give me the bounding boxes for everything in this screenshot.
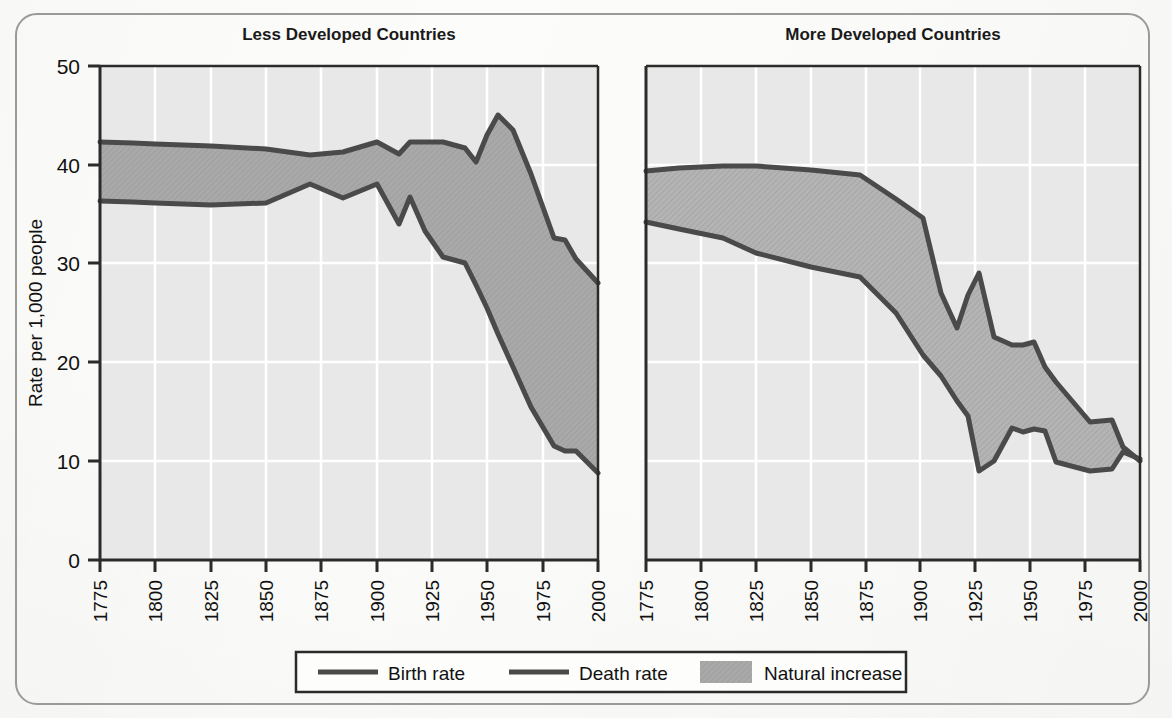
y-tick-30: 30 (57, 252, 80, 275)
x-tick-1950-right: 1950 (1020, 580, 1041, 622)
x-tick-1775-left: 1775 (90, 580, 111, 622)
x-ticks-left (100, 560, 598, 572)
panel-title-more-developed: More Developed Countries (785, 25, 1000, 44)
legend-item-natural-increase[interactable]: Natural increase (700, 661, 902, 684)
x-tick-labels-left: 1775 1800 1825 1850 1875 1900 1925 1950 … (90, 580, 609, 622)
x-tick-1900-left: 1900 (367, 580, 388, 622)
y-tick-labels: 50 40 30 20 10 0 (57, 55, 80, 572)
y-axis-label: Rate per 1,000 people (25, 219, 46, 407)
x-tick-1875-right: 1875 (856, 580, 877, 622)
panel-title-less-developed: Less Developed Countries (242, 25, 456, 44)
figure-svg: Less Developed Countries (0, 0, 1172, 718)
y-ticks-left (88, 66, 100, 560)
x-tick-1900-right: 1900 (910, 580, 931, 622)
x-tick-1925-right: 1925 (965, 580, 986, 622)
x-tick-1975-right: 1975 (1075, 580, 1096, 622)
y-tick-0: 0 (68, 549, 80, 572)
panel-less-developed: Less Developed Countries (25, 25, 609, 622)
legend-swatch-icon-natural-increase (700, 661, 752, 683)
x-tick-2000-left: 2000 (588, 580, 609, 622)
x-tick-1800-right: 1800 (691, 580, 712, 622)
y-tick-20: 20 (57, 351, 80, 374)
x-tick-1825-left: 1825 (201, 580, 222, 622)
y-tick-10: 10 (57, 450, 80, 473)
legend-label-natural-increase: Natural increase (764, 663, 902, 684)
x-tick-1850-left: 1850 (256, 580, 277, 622)
x-tick-labels-right: 1775 1800 1825 1850 1875 1900 1925 1950 … (636, 580, 1151, 622)
y-tick-50: 50 (57, 55, 80, 78)
x-tick-1775-right: 1775 (636, 580, 657, 622)
x-tick-1825-right: 1825 (746, 580, 767, 622)
x-tick-1875-left: 1875 (311, 580, 332, 622)
x-tick-1925-left: 1925 (422, 580, 443, 622)
legend-label-death-rate: Death rate (579, 663, 668, 684)
panel-more-developed: More Developed Countries (636, 25, 1151, 622)
x-tick-1975-left: 1975 (533, 580, 554, 622)
page-canvas: Less Developed Countries (0, 0, 1172, 718)
x-tick-1850-right: 1850 (801, 580, 822, 622)
x-tick-1950-left: 1950 (477, 580, 498, 622)
plot-area-right: 1775 1800 1825 1850 1875 1900 1925 1950 … (636, 66, 1151, 622)
x-tick-2000-right: 2000 (1130, 580, 1151, 622)
x-ticks-right (646, 560, 1140, 572)
legend: Birth rate Death rate Natural increase (296, 652, 906, 692)
x-tick-1800-left: 1800 (145, 580, 166, 622)
y-tick-40: 40 (57, 154, 80, 177)
plot-area-left: 50 40 30 20 10 0 (57, 55, 609, 622)
legend-label-birth-rate: Birth rate (388, 663, 465, 684)
